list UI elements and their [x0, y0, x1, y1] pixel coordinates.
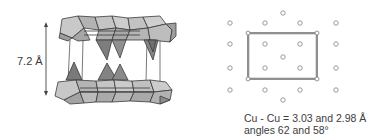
- cu-atom: [263, 88, 267, 92]
- cu-atom: [228, 88, 232, 92]
- cu-atom: [263, 42, 267, 46]
- cu-atom: [298, 66, 302, 70]
- cu-atom: [298, 88, 302, 92]
- cu-atom: [334, 66, 338, 70]
- cu-atom: [334, 21, 338, 25]
- cu-distance-caption: Cu - Cu = 3.03 and 2.98 Å: [244, 112, 366, 124]
- angles-caption: angles 62 and 58°: [244, 124, 329, 136]
- bottom-octahedral-layer: [55, 80, 172, 104]
- cu-atom: [334, 88, 338, 92]
- cu-lattice-atoms: [228, 11, 338, 102]
- cu-atom: [228, 42, 232, 46]
- cu-atom: [228, 66, 232, 70]
- cell-corner-atom: [246, 77, 250, 81]
- bottom-tetrahedra: [66, 62, 128, 80]
- cu-atom: [263, 21, 267, 25]
- interlayer-distance-label: 7.2 Å: [17, 55, 43, 67]
- interlayer-distance-arrow: [44, 22, 48, 96]
- cu-atom: [298, 21, 302, 25]
- top-octahedral-layer: [59, 16, 176, 42]
- cu-atom: [281, 11, 285, 15]
- cu-atom: [281, 98, 285, 102]
- cu-atom: [334, 42, 338, 46]
- cu-atom: [298, 42, 302, 46]
- cu-atom: [281, 55, 285, 59]
- cell-corner-atom: [315, 77, 319, 81]
- top-tetrahedra: [96, 40, 158, 60]
- cell-corner-atom: [315, 31, 319, 35]
- cell-corner-atom: [246, 31, 250, 35]
- cu-atom: [263, 66, 267, 70]
- cu-atom: [228, 21, 232, 25]
